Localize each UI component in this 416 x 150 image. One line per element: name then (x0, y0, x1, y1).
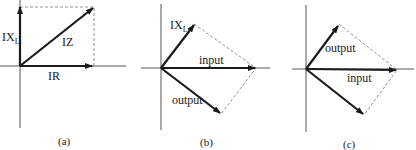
label-ir: IR (48, 69, 60, 83)
phasor-diagrams: IXL IZ IR (a) IXL input output (b) outpu… (0, 0, 416, 150)
diagram-a: IXL IZ IR (a) (0, 0, 126, 148)
label-output: output (172, 93, 203, 107)
caption-b: (b) (200, 136, 213, 149)
caption-c: (c) (343, 138, 356, 150)
label-iz: IZ (62, 35, 73, 49)
diagram-b: IXL input output (b) (141, 4, 270, 149)
diagram-c: output input (c) (292, 5, 414, 150)
label-output: output (325, 41, 356, 55)
label-ixl: IXL (2, 30, 20, 46)
label-ixl: IXL (170, 18, 188, 34)
input-vector (306, 69, 396, 70)
caption-a: (a) (58, 135, 71, 148)
iz-vector (20, 8, 93, 66)
label-input: input (199, 53, 224, 67)
label-input: input (347, 71, 372, 85)
